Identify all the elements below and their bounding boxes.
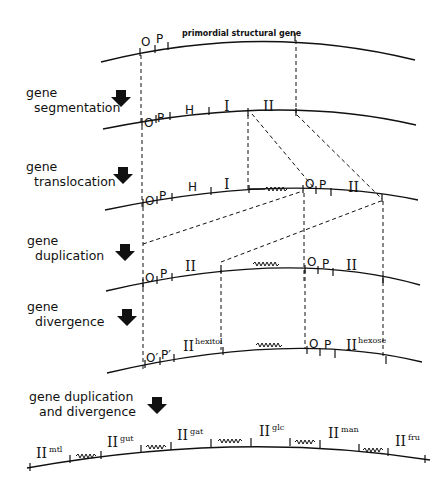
- spacer-dna-icon: [256, 343, 282, 347]
- spacer-dna-icon: [253, 262, 279, 266]
- promoter-label-2: P: [322, 257, 329, 271]
- step-label-line1: gene: [26, 159, 58, 174]
- row-gene-family: IImtl IIgut IIgat IIglc IIman IIfru: [27, 423, 430, 471]
- row-primordial: O P primordial structural gene: [101, 29, 415, 62]
- operator-label-variant: O′: [146, 351, 158, 365]
- operator-label: O: [145, 194, 154, 208]
- down-arrow-icon: [115, 244, 135, 261]
- gene-h-label: H: [185, 103, 194, 117]
- operator-label-2: O: [309, 337, 318, 351]
- gene-i-label: I: [224, 98, 230, 114]
- gene-ii-hexitol-label: IIhexitol: [183, 337, 223, 354]
- promoter-label-2: P: [319, 178, 326, 192]
- step-duplication: gene duplication: [27, 233, 135, 263]
- operator-label: O: [145, 271, 154, 285]
- promoter-label: P: [157, 111, 164, 125]
- gene-ii-hexose-label: IIhexose: [346, 336, 386, 353]
- gene-ii-glc-label: IIglc: [259, 423, 285, 439]
- gene-ii-fru-label: IIfru: [395, 433, 420, 449]
- step-label-line2: divergence: [35, 314, 105, 329]
- gene-ii-label: II: [348, 179, 359, 195]
- gene-evolution-diagram: O P primordial structural gene gene segm…: [0, 0, 448, 495]
- spacer-dna-icon: [265, 187, 287, 191]
- down-arrow-icon: [113, 167, 133, 184]
- primordial-gene-label: primordial structural gene: [182, 29, 302, 38]
- step-duplication-and-divergence: gene duplication and divergence: [29, 389, 167, 419]
- step-label-line1: gene: [26, 85, 58, 100]
- down-arrow-icon: [147, 397, 167, 414]
- gene-ii-gut-label: IIgut: [107, 434, 134, 450]
- gene-h-label: H: [188, 180, 197, 194]
- operator-label-2: O: [307, 255, 316, 269]
- step-label-line2: translocation: [34, 174, 116, 189]
- spacer-dna-icon: [295, 440, 315, 444]
- gene-ii-gat-label: IIgat: [177, 427, 204, 443]
- row-translocation: O P H I O P II: [105, 176, 418, 210]
- step-label-line1: gene duplication: [29, 389, 133, 404]
- step-label-line1: gene: [27, 233, 59, 248]
- promoter-label-variant: P′: [161, 348, 171, 362]
- step-label-line2: duplication: [35, 248, 104, 263]
- step-label-line2: and divergence: [39, 404, 136, 419]
- step-label-line2: segmentation: [34, 100, 120, 115]
- promoter-label: P: [156, 32, 163, 46]
- gene-ii-label: II: [263, 98, 274, 114]
- promoter-label: P: [160, 267, 167, 281]
- operator-label: O: [141, 35, 150, 49]
- step-label-line1: gene: [27, 299, 59, 314]
- down-arrow-icon: [117, 309, 137, 326]
- spacer-dna-icon: [218, 439, 242, 443]
- gene-i-label: I: [224, 176, 230, 192]
- operator-label-2: O: [305, 177, 314, 191]
- promoter-label-2: P: [324, 338, 331, 352]
- gene-ii-label: II: [185, 258, 196, 274]
- spacer-dna-icon: [146, 445, 166, 449]
- step-translocation: gene translocation: [26, 159, 133, 189]
- row-duplication: O P II O P II: [106, 255, 420, 291]
- operator-label: O: [144, 116, 153, 130]
- gene-ii-mtl-label: IImtl: [36, 445, 63, 461]
- gene-ii-man-label: IIman: [328, 425, 359, 441]
- row-segmentation: O P H I II: [103, 98, 416, 130]
- row-divergence: O′ P′ IIhexitol O P IIhexose: [107, 336, 422, 373]
- step-divergence: gene divergence: [27, 299, 137, 329]
- gene-ii-label-2: II: [346, 257, 357, 273]
- step-segmentation: gene segmentation: [26, 85, 131, 115]
- promoter-label: P: [159, 189, 166, 203]
